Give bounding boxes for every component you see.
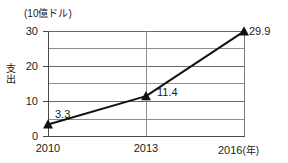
x-tick-label-2010: 2010: [28, 142, 68, 154]
x-tick-label-2016-year: 2016: [218, 144, 242, 156]
y-tick-label-10: 10: [12, 95, 38, 107]
point-label-2016: 29.9: [249, 25, 270, 37]
y-tick-label-20: 20: [12, 60, 38, 72]
x-axis-unit-label: (年): [242, 145, 259, 156]
data-point-marker-2016: [239, 26, 249, 35]
point-label-2013: 11.4: [157, 86, 178, 98]
plot-area: [48, 31, 245, 137]
data-point-marker-2013: [141, 91, 151, 100]
y-tick-label-30: 30: [12, 25, 38, 37]
chart-unit-caption: (10億ドル): [24, 5, 72, 20]
chart-figure: (10億ドル) 支出 0 10 20 30 3.3 11.4 29.9 2010…: [0, 0, 288, 163]
x-tick-label-2013: 2013: [126, 142, 166, 154]
data-series-line: [48, 31, 245, 137]
y-tick-label-0: 0: [12, 130, 38, 142]
x-tick-label-2016: 2016(年): [218, 142, 278, 157]
point-label-2010: 3.3: [55, 108, 70, 120]
